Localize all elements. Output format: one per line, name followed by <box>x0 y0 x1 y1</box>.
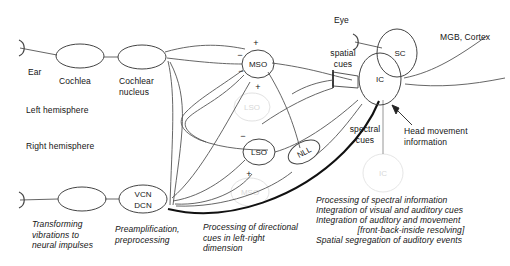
mso-sign-bottom: + <box>255 82 260 92</box>
lso-sign-top: − <box>240 131 245 141</box>
edge-spatial-cues-inflow <box>292 80 333 94</box>
right-hemisphere-label: Right hemisphere <box>26 141 94 152</box>
mso-lso-caption: Processing of directional cues in left-r… <box>203 222 298 254</box>
edge-spatial-cues-inflow-2 <box>262 88 333 124</box>
ic-caption-line-1: Integration of visual and auditory cues <box>316 205 463 216</box>
edge-vcn-lso <box>173 160 245 201</box>
lso-sign-bottom: + <box>246 169 251 179</box>
ghost-ic-label: IC <box>379 169 387 178</box>
cochlear-nucleus-label: Cochlear nucleus <box>119 76 154 97</box>
mso-sign-top: + <box>253 38 258 48</box>
spectral-cues-label: spectral cues <box>344 124 386 145</box>
edge-cn-descend-1 <box>168 61 173 205</box>
mso-sign-left-lower: − <box>238 66 243 76</box>
edge-spatial-cues-wedge <box>333 72 358 88</box>
ear-label: Ear <box>28 67 42 78</box>
ic-caption-line-3: [front-back-inside resolving] <box>316 225 506 236</box>
dcn-label: DCN <box>134 201 152 210</box>
cochlea-label: Cochlea <box>59 76 91 87</box>
spatial-cues-label: spatial cues <box>322 48 364 69</box>
edge-ic-cortex-lower <box>405 78 505 86</box>
vcn-label: VCN <box>135 190 152 199</box>
edge-ear-cochlea <box>20 48 57 55</box>
sc-label: SC <box>394 49 405 58</box>
edge-cn-mso-top <box>165 45 245 52</box>
cochlea-node <box>56 44 104 68</box>
cochlear-nucleus-caption: Preamplification, preprocessing <box>115 224 180 245</box>
head-movement-label: Head movement information <box>404 126 468 147</box>
ic-caption-line-0: Processing of spectral information <box>316 195 447 206</box>
ic-caption-line-4: Spatial segregation of auditory events <box>316 235 462 246</box>
right-cochlea-node <box>58 187 106 211</box>
head-movement-arrowhead <box>392 105 399 114</box>
ic-caption-line-2: Integration of auditory and movement <box>316 215 460 226</box>
cochlear-nucleus-node <box>118 45 166 69</box>
ear-caption: Transforming vibrations to neural impuls… <box>32 219 93 251</box>
eye-label: Eye <box>334 15 349 26</box>
mgb-cortex-label: MGB, Cortex <box>440 32 490 43</box>
edge-cn-mso-left <box>167 58 242 64</box>
mso-sign-left-upper: − <box>237 50 242 60</box>
left-hemisphere-label: Left hemisphere <box>26 105 88 116</box>
edge-vcn-nll <box>176 172 292 206</box>
mso-label: MSO <box>249 60 267 69</box>
ic-label: IC <box>376 75 384 84</box>
nll-label: NLL <box>296 145 314 160</box>
ghost-lso-label: LSO <box>244 103 260 112</box>
lso-label: LSO <box>251 148 267 157</box>
edge-rear-cochlea <box>20 199 58 200</box>
